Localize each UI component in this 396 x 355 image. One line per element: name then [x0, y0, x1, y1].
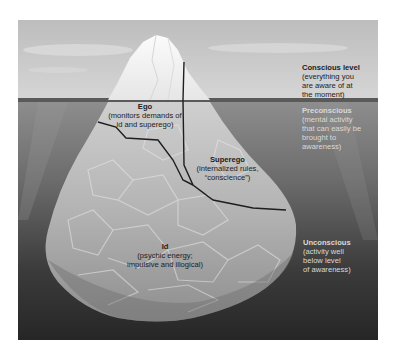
preconscious-desc: awareness) [302, 142, 361, 151]
ego-title: Ego [100, 102, 190, 111]
id-desc: impulsive and illogical) [115, 260, 215, 269]
ego-desc: (monitors demands of [100, 111, 190, 120]
unconscious-label: Unconscious (activity well below level o… [303, 238, 351, 274]
ego-desc: id and superego) [100, 120, 190, 129]
conscious-level-title: Conscious level [302, 63, 360, 72]
id-label: Id (psychic energy; impulsive and illogi… [115, 242, 215, 269]
preconscious-label: Preconscious (mental activity that can e… [302, 106, 361, 151]
superego-label: Superego (internalized rules, “conscienc… [190, 155, 265, 182]
preconscious-desc: (mental activity [302, 115, 361, 124]
conscious-level-desc: (everything you [302, 72, 360, 81]
conscious-level-desc: are aware of at [302, 81, 360, 90]
unconscious-desc: below level [303, 256, 351, 265]
preconscious-title: Preconscious [302, 106, 361, 115]
conscious-level-label: Conscious level (everything you are awar… [302, 63, 360, 99]
ego-label: Ego (monitors demands of id and superego… [100, 102, 190, 129]
conscious-level-desc: the moment) [302, 90, 360, 99]
preconscious-desc: that can easily be [302, 124, 361, 133]
superego-title: Superego [190, 155, 265, 164]
unconscious-desc: (activity well [303, 247, 351, 256]
unconscious-desc: of awareness) [303, 265, 351, 274]
preconscious-desc: brought to [302, 133, 361, 142]
superego-desc: “conscience”) [190, 173, 265, 182]
unconscious-title: Unconscious [303, 238, 351, 247]
superego-desc: (internalized rules, [190, 164, 265, 173]
id-title: Id [115, 242, 215, 251]
id-desc: (psychic energy; [115, 251, 215, 260]
